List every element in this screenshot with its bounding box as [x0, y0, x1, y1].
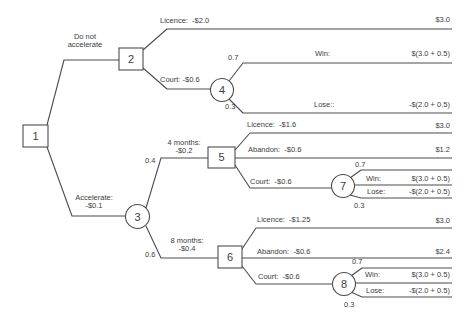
probability-n4-win: 0.7	[228, 54, 238, 62]
branch-label-do-not-accelerate: Do not accelerate	[62, 33, 108, 49]
branch-label-lose-n8: Lose:	[366, 287, 384, 295]
branch-label-licence-n5: Licence: -$1.6	[247, 121, 296, 129]
probability-n8-lose: 0.3	[344, 301, 354, 309]
payoff-n7-win: $(3.0 + 0.5)	[394, 175, 450, 183]
probability-n7-win: 0.7	[355, 161, 365, 169]
branch-label-eight-months: 8 months: -$0.4	[166, 237, 208, 253]
payoff-n7-lose: -$(2.0 + 0.5)	[394, 188, 450, 196]
probability-n3-four-months: 0.4	[145, 157, 155, 165]
probability-n8-win: 0.7	[352, 258, 362, 266]
payoff-n6-abandon: $2.4	[392, 248, 450, 256]
payoff-n5-licence: $3.0	[392, 122, 450, 130]
branch-label-accelerate: Accelerate: -$0.1	[73, 194, 115, 210]
node-5: 5	[208, 151, 235, 163]
payoff-n4-win: $(3.0 + 0.5)	[392, 50, 450, 58]
payoff-n8-win: $(3.0 + 0.5)	[394, 271, 450, 279]
branch-label-lose-n4: Lose::	[314, 101, 334, 109]
branch-label-licence-n2: Licence: -$2.0	[160, 17, 209, 25]
node-8: 8	[332, 278, 356, 290]
branch-n2-licence	[143, 29, 452, 50]
branch-label-licence-n6: Licence: -$1.25	[257, 216, 310, 224]
probability-n3-eight-months: 0.6	[145, 251, 155, 259]
branch-label-win-n7: Win:	[366, 175, 381, 183]
branch-label-court-n6: Court: -$0.6	[258, 273, 300, 281]
payoff-n6-licence: $3.0	[392, 217, 450, 225]
branch-label-four-months: 4 months: -$0.2	[163, 139, 205, 155]
branch-label-court-n5: Court: -$0.6	[250, 178, 292, 186]
branch-n6-licence	[242, 228, 452, 249]
node-7: 7	[331, 180, 355, 192]
payoff-n2-licence: $3.0	[392, 16, 450, 24]
branch-label-win-n8: Win:	[365, 271, 380, 279]
branch-label-win-n4: Win:	[315, 50, 330, 58]
branch-label-lose-n7: Lose:	[367, 188, 385, 196]
node-3: 3	[125, 211, 150, 223]
node-4: 4	[210, 84, 234, 96]
decision-tree-diagram: 1 2 3 4 5 6 7 8 Do not accelerate Accele…	[0, 0, 472, 328]
branch-n1-do-not-accelerate	[47, 60, 119, 125]
branch-label-court-n2: Court: -$0.6	[160, 76, 200, 84]
node-1: 1	[23, 130, 48, 142]
branch-label-abandon-n5: Abandon: -$0.6	[248, 146, 301, 154]
branch-n4-win	[229, 63, 452, 81]
branch-n3-four-months	[146, 158, 208, 208]
payoff-n4-lose: -$(2.0 + 0.5)	[392, 101, 450, 109]
branch-lines	[47, 29, 452, 297]
payoff-n5-abandon: $1.2	[392, 146, 450, 154]
payoff-n8-lose: -$(2.0 + 0.5)	[394, 287, 450, 295]
node-6: 6	[218, 251, 242, 263]
branch-label-abandon-n6: Abandon: -$0.6	[257, 248, 310, 256]
probability-n7-lose: 0.3	[354, 202, 364, 210]
probability-n4-lose: 0.3	[225, 103, 235, 111]
node-2: 2	[119, 53, 143, 65]
